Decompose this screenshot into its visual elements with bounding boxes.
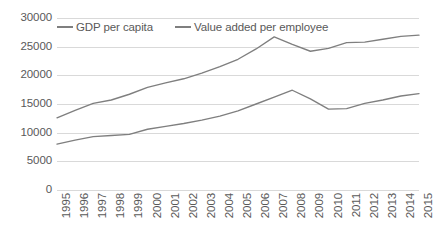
- x-axis: 1995199619971998199920002001200220032004…: [57, 193, 419, 243]
- legend-item[interactable]: Value added per employee: [175, 21, 328, 33]
- x-axis-tick-label: 2009: [314, 193, 326, 239]
- y-axis-tick-label: 15000: [0, 98, 52, 110]
- y-axis-tick-label: 25000: [0, 41, 52, 53]
- legend-item[interactable]: GDP per capita: [57, 21, 153, 33]
- y-axis-tick-label: 30000: [0, 12, 52, 24]
- x-axis-tick-label: 1999: [133, 193, 145, 239]
- legend-line-icon: [57, 26, 73, 27]
- legend-line-icon: [175, 26, 191, 27]
- x-axis-tick-label: 2007: [278, 193, 290, 239]
- x-axis-tick-label: 2015: [423, 193, 435, 239]
- gridline-0: [57, 190, 419, 191]
- x-axis-tick-label: 2002: [188, 193, 200, 239]
- x-axis-tick-label: 2004: [224, 193, 236, 239]
- x-axis-tick-label: 2010: [333, 193, 345, 239]
- x-axis-tick-label: 2006: [260, 193, 272, 239]
- series-line: [57, 90, 419, 144]
- x-axis-tick-label: 1995: [61, 193, 73, 239]
- y-axis-tick-label: 10000: [0, 127, 52, 139]
- x-axis-tick-label: 2001: [170, 193, 182, 239]
- x-axis-tick-label: 2000: [152, 193, 164, 239]
- x-axis-tick-label: 2013: [387, 193, 399, 239]
- x-axis-tick-label: 2003: [206, 193, 218, 239]
- x-axis-tick-label: 1996: [79, 193, 91, 239]
- y-axis-tick-label: 5000: [0, 155, 52, 167]
- x-axis-tick-label: 2005: [242, 193, 254, 239]
- x-axis-tick-label: 2011: [351, 193, 363, 239]
- plot-area: [57, 18, 419, 190]
- chart-legend: GDP per capitaValue added per employee: [57, 20, 328, 34]
- legend-label: Value added per employee: [194, 21, 328, 33]
- x-axis-tick-label: 1998: [115, 193, 127, 239]
- series-container: [57, 18, 419, 190]
- legend-label: GDP per capita: [76, 21, 153, 33]
- y-axis-tick-label: 20000: [0, 69, 52, 81]
- x-axis-tick-label: 2014: [405, 193, 417, 239]
- y-axis-tick-label: 0: [0, 184, 52, 196]
- series-line: [57, 35, 419, 118]
- x-axis-tick-label: 2008: [296, 193, 308, 239]
- x-axis-tick-label: 1997: [97, 193, 109, 239]
- y-axis: 050001000015000200002500030000: [0, 0, 52, 243]
- x-axis-tick-label: 2012: [369, 193, 381, 239]
